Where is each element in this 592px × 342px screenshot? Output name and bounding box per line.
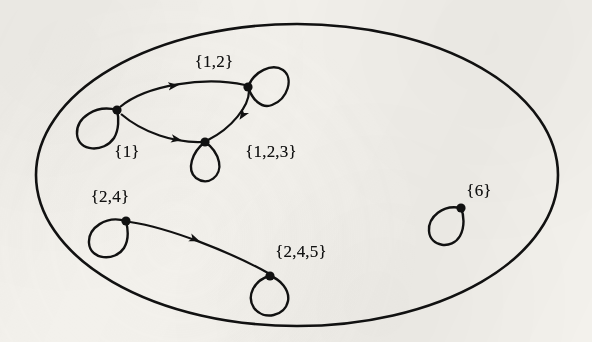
edge-s12-to-s123 bbox=[208, 91, 249, 140]
self-loop-s12 bbox=[248, 67, 289, 105]
self-loop-s1 bbox=[77, 109, 118, 149]
node-label-s24: {2,4} bbox=[91, 188, 130, 205]
figure-canvas: {1} {1,2} {1,2,3} {2,4} {2,4,5} {6} bbox=[0, 0, 592, 342]
edge-s1-to-s12-arrowhead-seg bbox=[120, 85, 178, 107]
node-label-s6: {6} bbox=[466, 182, 491, 199]
node-label-s1: {1} bbox=[114, 143, 139, 160]
edge-s1-to-s12 bbox=[120, 82, 245, 107]
vertex-s6[interactable] bbox=[456, 203, 465, 212]
self-loop-s245 bbox=[251, 276, 288, 315]
node-label-s245: {2,4,5} bbox=[275, 243, 327, 260]
vertex-s123[interactable] bbox=[200, 137, 209, 146]
edge-s24-to-s245 bbox=[130, 222, 268, 273]
edge-s1-to-s123 bbox=[121, 114, 202, 142]
vertex-s24[interactable] bbox=[121, 216, 130, 225]
self-loop-s6 bbox=[429, 207, 464, 245]
universe-ellipse bbox=[36, 24, 558, 326]
self-loop-s123 bbox=[191, 142, 219, 181]
directed-graph-drawing bbox=[0, 0, 592, 342]
self-loop-s24 bbox=[89, 220, 128, 258]
node-label-s12: {1,2} bbox=[195, 53, 234, 70]
vertex-s1[interactable] bbox=[112, 105, 121, 114]
edge-s1-to-s123-arrowhead-seg bbox=[121, 114, 181, 140]
vertex-s12[interactable] bbox=[243, 82, 252, 91]
vertex-s245[interactable] bbox=[265, 271, 274, 280]
node-label-s123: {1,2,3} bbox=[245, 143, 297, 160]
